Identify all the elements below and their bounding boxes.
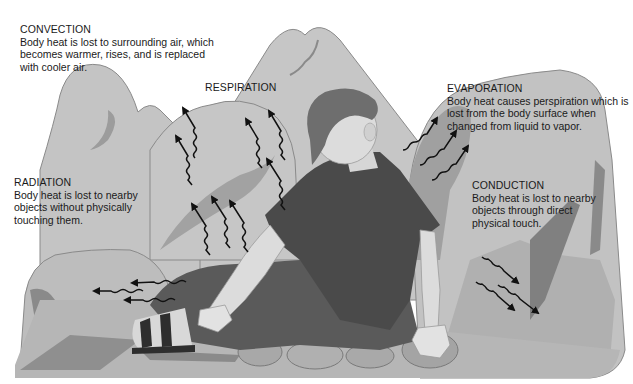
evaporation-title: EVAPORATION (447, 82, 632, 95)
label-conduction: CONDUCTION Body heat is lost to nearby o… (472, 179, 602, 229)
evaporation-description: Body heat causes perspiration which is l… (447, 95, 632, 133)
label-evaporation: EVAPORATION Body heat causes perspiratio… (447, 82, 632, 132)
convection-title: CONVECTION (20, 23, 220, 36)
label-respiration: RESPIRATION (205, 81, 305, 94)
radiation-title: RADIATION (14, 176, 149, 189)
conduction-description: Body heat is lost to nearby objects thro… (472, 192, 602, 230)
label-convection: CONVECTION Body heat is lost to surround… (20, 23, 220, 73)
conduction-title: CONDUCTION (472, 179, 602, 192)
radiation-description: Body heat is lost to nearby objects with… (14, 189, 149, 227)
label-radiation: RADIATION Body heat is lost to nearby ob… (14, 176, 149, 226)
convection-description: Body heat is lost to surrounding air, wh… (20, 36, 220, 74)
respiration-title: RESPIRATION (205, 81, 305, 94)
